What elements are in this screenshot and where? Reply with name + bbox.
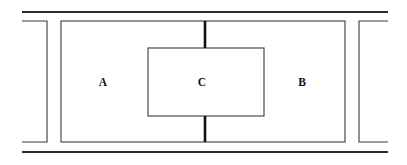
diagram-canvas: A C B [0, 0, 407, 165]
label-a: A [99, 76, 108, 88]
diagram-figure: A C B [0, 0, 407, 165]
label-b: B [298, 76, 306, 88]
label-c: C [198, 76, 206, 88]
right-bracket [359, 21, 388, 142]
left-bracket [22, 21, 47, 142]
